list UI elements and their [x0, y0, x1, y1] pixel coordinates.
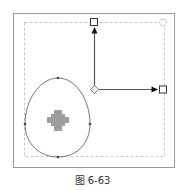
y-axis-handle[interactable] — [91, 19, 98, 26]
anchor-point-left[interactable] — [24, 123, 27, 126]
figure-caption: 图 6-63 — [0, 172, 185, 187]
rotate-handle-icon[interactable] — [160, 19, 167, 26]
anchor-point-right[interactable] — [89, 123, 92, 126]
figure-canvas — [0, 0, 185, 190]
anchor-point-top[interactable] — [57, 77, 60, 80]
anchor-point-bottom[interactable] — [57, 156, 60, 159]
x-axis-handle[interactable] — [160, 86, 167, 93]
